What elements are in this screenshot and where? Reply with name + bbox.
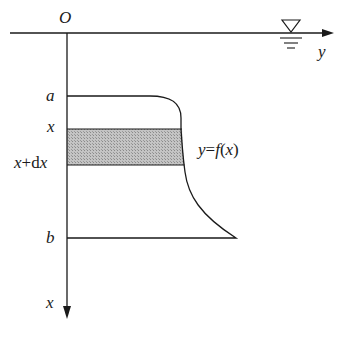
vertical-axis-arrow-icon <box>63 306 71 319</box>
depth-label-x: x <box>47 118 55 135</box>
diagram-canvas <box>0 0 342 337</box>
depth-label-x-plus-dx: x+dx <box>14 154 47 171</box>
depth-label-b: b <box>46 229 55 246</box>
shaded-strip <box>67 129 185 165</box>
plate-outline-curve <box>67 96 236 238</box>
water-level-icon <box>280 20 302 48</box>
depth-label-a: a <box>46 87 55 104</box>
curve-label: y=f(x) <box>198 141 239 158</box>
origin-label: O <box>59 9 71 26</box>
vertical-axis-label: x <box>46 294 54 311</box>
horizontal-axis-label: y <box>318 43 326 60</box>
horizontal-axis-arrow-icon <box>322 29 334 37</box>
